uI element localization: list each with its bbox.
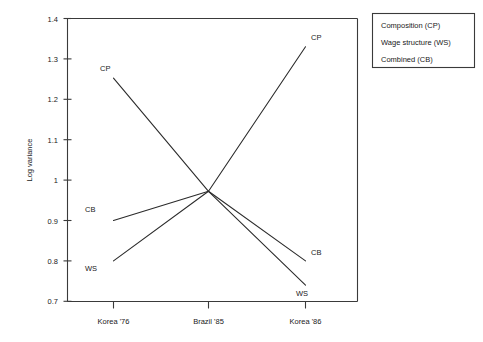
y-tick-label-3: 1.1 (48, 136, 58, 145)
x-tick-marks (114, 302, 306, 309)
point-label-cp-right: CP (311, 33, 321, 42)
series-line-combined (114, 191, 306, 261)
y-tick-labels: 1.4 1.3 1.2 1.1 1 0.9 0.8 0.7 (48, 15, 58, 307)
x-tick-label-korea-76: Korea '76 (98, 317, 130, 326)
legend-item-composition: Composition (CP) (381, 21, 441, 30)
series-line-wage-structure (114, 191, 306, 285)
point-label-ws-right: WS (296, 289, 308, 298)
y-tick-label-1: 1.3 (48, 55, 58, 64)
chart-figure: 1.4 1.3 1.2 1.1 1 0.9 0.8 0.7 Log varian… (0, 0, 483, 342)
x-tick-labels: Korea '76 Brazil '85 Korea '86 (98, 317, 322, 326)
y-tick-label-7: 0.7 (48, 297, 58, 306)
point-label-cp-left: CP (100, 64, 110, 73)
series-line-composition (114, 47, 306, 192)
y-tick-label-4: 1 (54, 176, 58, 185)
legend-item-wage-structure: Wage structure (WS) (381, 38, 451, 47)
plot-axes (68, 19, 358, 302)
x-tick-label-brazil-85: Brazil '85 (193, 317, 224, 326)
point-label-ws-left: WS (85, 264, 97, 273)
line-chart: 1.4 1.3 1.2 1.1 1 0.9 0.8 0.7 Log varian… (0, 0, 483, 342)
y-tick-label-5: 0.9 (48, 217, 58, 226)
y-axis-title: Log variance (25, 139, 34, 182)
data-series (114, 47, 306, 285)
point-label-cb-right: CB (311, 248, 321, 257)
legend-item-combined: Combined (CB) (381, 55, 433, 64)
y-tick-label-6: 0.8 (48, 257, 58, 266)
y-tick-label-0: 1.4 (48, 15, 58, 24)
chart-legend: Composition (CP) Wage structure (WS) Com… (373, 14, 475, 68)
y-tick-label-2: 1.2 (48, 95, 58, 104)
point-label-cb-left: CB (85, 205, 95, 214)
point-labels: CP CP CB CB WS WS (85, 33, 321, 298)
x-tick-label-korea-86: Korea '86 (290, 317, 322, 326)
